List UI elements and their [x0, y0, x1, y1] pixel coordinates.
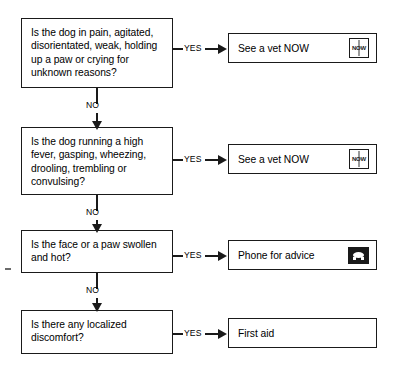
connector-no-2-arrowhead: [92, 224, 102, 233]
connector-yes-4-left: [173, 333, 183, 335]
question-node-3[interactable]: Is the face or a paw swollen and hot?: [21, 230, 173, 273]
connector-yes-3-right: [205, 255, 219, 257]
connector-yes-4-right: [205, 333, 219, 335]
connector-yes-3-arrowhead: [218, 251, 227, 261]
action-4-text: First aid: [238, 327, 376, 340]
connector-label-no-3: NO: [86, 285, 99, 295]
action-2-icon-slot: NOW: [349, 149, 369, 169]
connector-yes-2-left: [173, 159, 183, 161]
action-1-text: See a vet NOW: [238, 42, 349, 55]
action-node-first-aid[interactable]: First aid: [228, 318, 377, 348]
action-2-text: See a vet NOW: [238, 153, 349, 166]
now-urgent-icon: NOW: [349, 149, 369, 169]
flowchart-canvas: Is the dog in pain, agitated, disorienta…: [0, 0, 397, 377]
action-3-icon-slot: [348, 247, 369, 264]
connector-yes-1-arrowhead: [218, 44, 227, 54]
connector-yes-4-arrowhead: [218, 329, 227, 339]
connector-yes-2-right: [205, 159, 219, 161]
question-4-text: Is there any localized discomfort?: [31, 318, 172, 345]
now-urgent-icon: NOW: [349, 38, 369, 58]
question-2-text: Is the dog running a high fever, gasping…: [31, 135, 172, 189]
connector-label-yes-4: YES: [184, 328, 202, 338]
action-1-icon-slot: NOW: [349, 38, 369, 58]
question-node-1[interactable]: Is the dog in pain, agitated, disorienta…: [21, 18, 173, 88]
connector-label-yes-1: YES: [184, 43, 202, 53]
telephone-icon-handset: [353, 252, 364, 258]
action-node-phone-for-advice[interactable]: Phone for advice: [228, 240, 377, 270]
scan-artifact-mark: [5, 268, 11, 270]
question-node-2[interactable]: Is the dog running a high fever, gasping…: [21, 127, 173, 195]
connector-yes-2-arrowhead: [218, 155, 227, 165]
connector-label-no-2: NO: [86, 207, 99, 217]
connector-yes-1-right: [205, 48, 219, 50]
connector-label-yes-3: YES: [184, 250, 202, 260]
connector-no-1-arrowhead: [92, 121, 102, 130]
question-node-4[interactable]: Is there any localized discomfort?: [21, 310, 173, 354]
question-1-text: Is the dog in pain, agitated, disorienta…: [31, 26, 172, 80]
now-icon-label: NOW: [352, 45, 366, 51]
action-node-see-vet-now-1[interactable]: See a vet NOW NOW: [228, 33, 377, 63]
connector-yes-3-left: [173, 255, 183, 257]
action-3-text: Phone for advice: [238, 249, 348, 262]
now-icon-label: NOW: [352, 156, 366, 162]
connector-yes-1-left: [173, 48, 183, 50]
connector-label-yes-2: YES: [184, 154, 202, 164]
question-3-text: Is the face or a paw swollen and hot?: [31, 238, 172, 265]
connector-label-no-1: NO: [86, 100, 99, 110]
action-node-see-vet-now-2[interactable]: See a vet NOW NOW: [228, 144, 377, 174]
telephone-icon: [348, 247, 369, 264]
connector-no-3-arrowhead: [92, 303, 102, 312]
